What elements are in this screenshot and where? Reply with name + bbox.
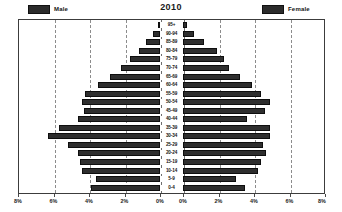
x-tick-label-right-6%: 6% (286, 198, 294, 204)
female-bar (183, 48, 217, 54)
female-bar-cell (183, 158, 324, 167)
male-bar-cell (19, 64, 160, 73)
pyramid-row: 15-19 (19, 158, 324, 167)
male-bar (84, 108, 160, 114)
female-bar (183, 168, 258, 174)
pyramid-row: 60-64 (19, 81, 324, 90)
x-tick-right-0% (183, 194, 184, 197)
plot-area: 95+90-9485-8980-8475-7970-7465-6960-6455… (18, 19, 325, 194)
female-bar-cell (183, 132, 324, 141)
pyramid-row: 65-69 (19, 72, 324, 81)
male-bar-cell (19, 106, 160, 115)
pyramid-row: 5-9 (19, 175, 324, 184)
pyramid-row: 30-34 (19, 132, 324, 141)
male-bar-cell (19, 166, 160, 175)
x-tick-left-6% (54, 194, 55, 197)
male-bar (130, 56, 160, 62)
x-tick-right-8% (325, 194, 326, 197)
female-bar-cell (183, 141, 324, 150)
x-tick-left-8% (18, 194, 19, 197)
female-bar (183, 159, 261, 165)
age-group-label: 30-34 (160, 133, 183, 139)
female-bar (183, 125, 270, 131)
female-bar (183, 185, 245, 191)
x-tick-label-right-4%: 4% (250, 198, 258, 204)
female-bar-cell (183, 124, 324, 133)
male-bar-cell (19, 89, 160, 98)
male-bar (121, 65, 160, 71)
female-bar-cell (183, 115, 324, 124)
age-group-label: 75-79 (160, 56, 183, 62)
female-bar (183, 133, 270, 139)
pyramid-row: 95+ (19, 21, 324, 30)
male-bar (80, 159, 160, 165)
female-bar (183, 108, 265, 114)
female-bar (183, 39, 204, 45)
age-group-label: 35-39 (160, 125, 183, 131)
female-bar (183, 22, 187, 28)
age-group-label: 45-49 (160, 108, 183, 114)
x-tick-label-right-8%: 8% (318, 198, 326, 204)
male-bar (153, 31, 160, 37)
female-bar-cell (183, 89, 324, 98)
age-group-label: 85-89 (160, 39, 183, 45)
x-tick-label-left-2%: 2% (121, 198, 129, 204)
female-bar (183, 74, 240, 80)
x-tick-label-left-8%: 8% (14, 198, 22, 204)
x-tick-right-6% (290, 194, 291, 197)
male-bar-cell (19, 47, 160, 56)
age-group-label: 90-94 (160, 31, 183, 37)
male-bar-cell (19, 30, 160, 39)
female-bar-cell (183, 106, 324, 115)
age-group-label: 55-59 (160, 91, 183, 97)
female-bar (183, 91, 261, 97)
male-bar-cell (19, 149, 160, 158)
x-tick-label-left-0%: 0% (156, 198, 164, 204)
female-bar (183, 31, 194, 37)
x-tick-left-4% (89, 194, 90, 197)
female-bar-cell (183, 175, 324, 184)
male-bar-cell (19, 115, 160, 124)
male-bar (139, 48, 160, 54)
female-bar-cell (183, 30, 324, 39)
x-axis: 8%6%4%2%0%0%2%4%6%8% (18, 194, 325, 212)
age-group-label: 50-54 (160, 99, 183, 105)
x-tick-right-4% (254, 194, 255, 197)
pyramid-row: 40-44 (19, 115, 324, 124)
male-bar (146, 39, 160, 45)
male-bar (82, 168, 160, 174)
male-bar (82, 99, 160, 105)
male-bar-cell (19, 124, 160, 133)
x-tick-label-right-0%: 0% (179, 198, 187, 204)
pyramid-row: 90-94 (19, 30, 324, 39)
female-bar (183, 65, 229, 71)
female-bar-cell (183, 149, 324, 158)
age-group-label: 95+ (160, 22, 183, 28)
age-group-label: 10-14 (160, 168, 183, 174)
pyramid-row: 10-14 (19, 166, 324, 175)
male-bar-cell (19, 81, 160, 90)
pyramid-row: 25-29 (19, 141, 324, 150)
age-group-label: 25-29 (160, 142, 183, 148)
pyramid-row: 20-24 (19, 149, 324, 158)
female-bar-cell (183, 47, 324, 56)
male-bar-cell (19, 132, 160, 141)
age-group-label: 65-69 (160, 74, 183, 80)
x-tick-label-left-4%: 4% (85, 198, 93, 204)
female-bar (183, 116, 247, 122)
male-bar-cell (19, 98, 160, 107)
male-bar-cell (19, 141, 160, 150)
age-group-label: 40-44 (160, 116, 183, 122)
age-group-label: 20-24 (160, 150, 183, 156)
pyramid-row: 45-49 (19, 106, 324, 115)
female-bar-cell (183, 21, 324, 30)
x-tick-label-right-2%: 2% (215, 198, 223, 204)
female-bar-cell (183, 55, 324, 64)
female-bar (183, 82, 252, 88)
female-bar-cell (183, 72, 324, 81)
male-bar-cell (19, 175, 160, 184)
male-bar (78, 150, 160, 156)
x-tick-label-left-6%: 6% (50, 198, 58, 204)
pyramid-row: 75-79 (19, 55, 324, 64)
male-bar (110, 74, 160, 80)
